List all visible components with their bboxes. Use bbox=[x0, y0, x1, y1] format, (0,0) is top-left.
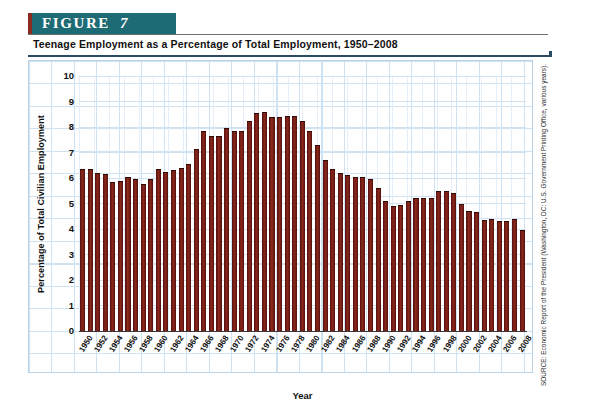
bar bbox=[141, 184, 146, 331]
bar bbox=[156, 169, 161, 331]
x-axis-tick-label: 1956 bbox=[122, 334, 139, 354]
bar-series bbox=[79, 76, 526, 331]
bar bbox=[482, 220, 487, 331]
y-axis-tick-label: 3 bbox=[69, 250, 74, 260]
bar bbox=[504, 221, 509, 331]
bar bbox=[353, 177, 358, 331]
bar bbox=[489, 219, 494, 331]
bar bbox=[330, 169, 335, 331]
bar bbox=[118, 181, 123, 331]
bar bbox=[216, 136, 221, 331]
x-axis-tick-label: 1960 bbox=[153, 334, 170, 354]
bar bbox=[224, 128, 229, 331]
source-note-text: SOURCE: Economic Report of the President… bbox=[540, 60, 548, 386]
figure-banner-body: FIGURE 7 bbox=[32, 13, 176, 34]
bar bbox=[376, 188, 381, 331]
x-axis-tick-label: 1980 bbox=[304, 334, 321, 354]
x-axis-tick-label: 1992 bbox=[395, 334, 412, 354]
y-axis-tick-label: 5 bbox=[69, 199, 74, 209]
x-axis-tick-label: 1978 bbox=[289, 334, 306, 354]
bar bbox=[254, 113, 259, 331]
bar bbox=[285, 116, 290, 331]
x-axis-tick-label: 1950 bbox=[77, 334, 94, 354]
bar bbox=[391, 206, 396, 331]
bar bbox=[88, 169, 93, 331]
x-axis-tick-label: 1968 bbox=[213, 334, 230, 354]
bar bbox=[209, 136, 214, 331]
bar bbox=[247, 121, 252, 331]
bar bbox=[269, 117, 274, 331]
figure-banner: FIGURE 7 bbox=[28, 13, 176, 34]
y-axis-tick-label: 6 bbox=[69, 173, 74, 183]
x-axis-tick-label: 2004 bbox=[486, 334, 503, 354]
y-axis-tick-label: 10 bbox=[63, 71, 74, 81]
bar bbox=[497, 221, 502, 331]
bar bbox=[459, 204, 464, 332]
x-axis-tick-label: 1996 bbox=[426, 334, 443, 354]
x-axis-tick-label: 1972 bbox=[244, 334, 261, 354]
bar bbox=[383, 201, 388, 331]
bar bbox=[232, 131, 237, 331]
bar bbox=[368, 179, 373, 331]
bar bbox=[413, 198, 418, 331]
x-axis-tick-label: 1982 bbox=[320, 334, 337, 354]
bar bbox=[406, 201, 411, 331]
x-axis-ticks: 1950195219541956195819601962196419661968… bbox=[79, 334, 526, 380]
header-rule-endcap bbox=[549, 51, 552, 57]
bar bbox=[421, 198, 426, 331]
bar bbox=[436, 191, 441, 331]
bar bbox=[315, 145, 320, 331]
y-axis-tick-label: 7 bbox=[69, 148, 74, 158]
x-axis-tick-label: 1958 bbox=[138, 334, 155, 354]
y-axis-tick-label: 8 bbox=[69, 122, 74, 132]
y-axis-tick-label: 9 bbox=[69, 97, 74, 107]
x-axis-tick-label: 1988 bbox=[365, 334, 382, 354]
bar bbox=[239, 131, 244, 331]
bar bbox=[345, 175, 350, 331]
x-axis-title: Year bbox=[79, 390, 526, 401]
source-note: SOURCE: Economic Report of the President… bbox=[540, 60, 556, 390]
bar bbox=[201, 131, 206, 331]
figure-number: 7 bbox=[120, 15, 128, 32]
bar bbox=[110, 182, 115, 331]
x-axis-tick-label: 1998 bbox=[441, 334, 458, 354]
bar bbox=[125, 177, 130, 331]
bar bbox=[80, 169, 85, 331]
bar bbox=[148, 179, 153, 331]
x-axis-tick-label: 1964 bbox=[183, 334, 200, 354]
bar bbox=[474, 212, 479, 331]
figure-banner-label: FIGURE bbox=[42, 15, 110, 32]
bar bbox=[179, 168, 184, 331]
bar bbox=[444, 191, 449, 331]
bar bbox=[429, 198, 434, 331]
y-axis-tick-label: 1 bbox=[69, 301, 74, 311]
bar bbox=[171, 170, 176, 331]
header-rule-bottom bbox=[28, 55, 551, 57]
x-axis-tick-label: 1994 bbox=[411, 334, 428, 354]
bar bbox=[133, 179, 138, 331]
x-axis-line bbox=[79, 331, 527, 332]
x-axis-tick-label: 1986 bbox=[350, 334, 367, 354]
x-axis-tick-label: 2008 bbox=[517, 334, 534, 354]
bar bbox=[292, 116, 297, 331]
bar bbox=[512, 219, 517, 331]
x-axis-tick-label: 1954 bbox=[107, 334, 124, 354]
bar bbox=[262, 112, 267, 331]
bar bbox=[95, 173, 100, 331]
bar bbox=[451, 193, 456, 331]
x-axis-tick-label: 1952 bbox=[92, 334, 109, 354]
bar bbox=[323, 160, 328, 331]
y-axis-tick-label: 2 bbox=[69, 275, 74, 285]
figure-title: Teenage Employment as a Percentage of To… bbox=[33, 38, 533, 50]
x-axis-tick-label: 1976 bbox=[274, 334, 291, 354]
x-axis-tick-label: 1962 bbox=[168, 334, 185, 354]
bar bbox=[466, 211, 471, 331]
y-axis-tick-label: 0 bbox=[69, 326, 74, 336]
x-axis-tick-label: 1990 bbox=[380, 334, 397, 354]
x-axis-tick-label: 1970 bbox=[229, 334, 246, 354]
x-axis-tick-label: 1966 bbox=[198, 334, 215, 354]
x-axis-tick-label: 2000 bbox=[456, 334, 473, 354]
bar bbox=[186, 164, 191, 331]
x-axis-tick-label: 1984 bbox=[335, 334, 352, 354]
